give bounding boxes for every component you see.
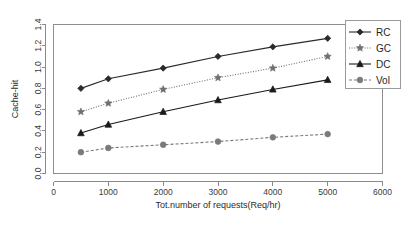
y-tick-label: 0.0 [33,167,43,179]
x-tick-group: 0100020003000400050006000 [51,182,392,198]
data-point-gc-2 [160,86,167,93]
data-point-rc-2 [160,65,166,71]
series-layer [77,35,331,155]
x-tick-label: 6000 [373,187,392,197]
y-tick-label: 0.4 [33,125,43,137]
data-point-vol-3 [215,139,221,145]
data-point-rc-3 [215,53,221,59]
series-line-vol [81,134,328,152]
chart-legend: RCGCDCVol [346,21,401,89]
cache-hit-line-chart: 0.00.20.40.60.81.01.21.4 Cache-hit 01000… [0,0,420,226]
data-point-rc-0 [78,85,84,91]
series-gc [77,53,331,115]
data-point-gc-5 [324,53,331,60]
data-point-rc-5 [325,35,331,41]
x-tick-label: 1000 [99,187,118,197]
series-rc [78,35,331,91]
series-line-dc [81,80,328,133]
x-tick-label: 3000 [209,187,228,197]
data-point-vol-0 [78,149,84,155]
legend-label-dc: DC [376,59,390,70]
y-tick-label: 0.8 [33,82,43,94]
data-point-vol-2 [160,142,166,148]
data-point-gc-1 [105,99,112,106]
y-tick-label: 1.0 [33,61,43,73]
chart-container: 0.00.20.40.60.81.01.21.4 Cache-hit 01000… [0,0,420,226]
x-axis: 0100020003000400050006000 Tot.number of … [51,182,392,211]
x-tick-label: 4000 [263,187,282,197]
x-tick-label: 0 [51,187,56,197]
legend-label-rc: RC [376,27,390,38]
data-point-vol-4 [270,134,276,140]
legend-box [346,21,401,89]
data-point-vol-5 [325,131,331,137]
data-point-gc-3 [214,74,221,81]
y-axis: 0.00.20.40.60.81.01.21.4 Cache-hit [10,18,46,179]
y-axis-title: Cache-hit [10,79,20,118]
y-tick-label: 0.6 [33,103,43,115]
series-line-rc [81,38,328,88]
x-tick-label: 2000 [154,187,173,197]
data-point-dc-5 [324,76,331,82]
legend-label-vol: Vol [376,75,390,86]
x-tick-label: 5000 [318,187,337,197]
series-dc [78,76,331,136]
data-point-gc-0 [77,108,84,115]
y-tick-label: 0.2 [33,146,43,158]
data-point-vol-1 [105,145,111,151]
series-vol [78,131,331,155]
x-axis-title: Tot.number of requests(Req/hr) [155,200,280,210]
y-tick-label: 1.2 [33,40,43,52]
y-tick-group: 0.00.20.40.60.81.01.21.4 [33,18,46,179]
legend-label-gc: GC [376,43,391,54]
data-point-gc-4 [269,64,276,71]
data-point-rc-4 [270,44,276,50]
legend-marker-vol [357,77,363,83]
data-point-rc-1 [105,76,111,82]
y-tick-label: 1.4 [33,18,43,30]
